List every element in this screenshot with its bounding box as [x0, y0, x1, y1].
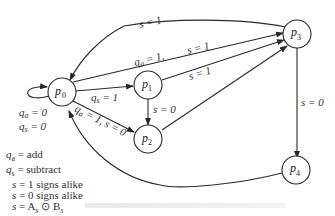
- label-p0-p2: qa = 1, s = 0: [72, 102, 129, 140]
- state-diagram-figure: p 0 p 1 p 2 p 3 p 4 s = 1 qa = 1, s = 1: [0, 0, 335, 216]
- label-p0-p1: qs = 1: [91, 91, 118, 105]
- state-p2: p 2: [134, 125, 162, 153]
- label-p3-p0: s = 1: [138, 13, 163, 29]
- svg-text:p: p: [289, 161, 296, 175]
- label-p0-p3-qa: qa = 1,: [133, 49, 166, 70]
- legend: qa = add qs = subtract s = 1 signs alike…: [6, 149, 83, 216]
- svg-text:qs = 1: qs = 1: [91, 91, 118, 105]
- svg-text:p: p: [141, 131, 148, 145]
- state-p1: p 1: [134, 71, 162, 99]
- svg-text:4: 4: [296, 169, 300, 178]
- svg-text:qs = 0: qs = 0: [19, 120, 47, 134]
- edge-p0-p0-self: [28, 87, 49, 98]
- state-p0: p 0: [48, 78, 76, 106]
- label-p3-p4: s = 0: [301, 96, 324, 108]
- legend-item: s = As ⊙ Bs: [6, 201, 83, 216]
- svg-text:qa = 1, s = 0: qa = 1, s = 0: [72, 102, 129, 140]
- label-p0-self: qa = 0 qs = 0: [19, 106, 47, 134]
- legend-item: qs = subtract: [6, 164, 83, 179]
- svg-text:qa = 1,: qa = 1,: [133, 49, 166, 70]
- edge-p2-p3: [162, 46, 287, 130]
- svg-text:p: p: [290, 25, 297, 39]
- svg-text:p: p: [54, 84, 61, 98]
- svg-text:0: 0: [62, 91, 66, 100]
- label-p0-p3-s: s = 1: [186, 39, 211, 56]
- label-p1-p3: s = 1: [187, 64, 212, 82]
- legend-item: qa = add: [6, 149, 83, 164]
- label-p1-p2: s = 0: [153, 103, 176, 115]
- state-p3: p 3: [283, 20, 311, 48]
- svg-text:3: 3: [297, 33, 301, 42]
- figure-caption-faint: [85, 203, 285, 208]
- svg-text:p: p: [141, 77, 148, 91]
- state-p4: p 4: [282, 156, 310, 184]
- svg-text:1: 1: [148, 84, 152, 93]
- svg-text:qa = 0: qa = 0: [19, 106, 47, 120]
- svg-text:2: 2: [148, 138, 152, 147]
